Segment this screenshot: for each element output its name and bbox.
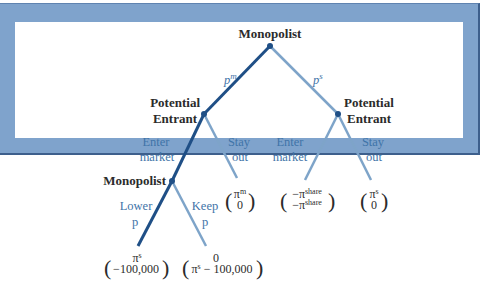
svg-text:(: ( xyxy=(360,188,367,213)
svg-text:): ) xyxy=(328,188,335,213)
node-lower-monopolist xyxy=(169,178,175,184)
left-enter-label-2: market xyxy=(140,150,175,164)
payoff-left-stay: ( πm 0 ) xyxy=(225,187,255,213)
branch-keep-p xyxy=(172,181,206,246)
right-enter-label-1: Enter xyxy=(276,135,304,149)
lower-p-label-1: Lower xyxy=(120,199,153,213)
root-label: Monopolist xyxy=(239,26,303,41)
right-stay-label-1: Stay xyxy=(362,135,385,149)
lower-p-label-2: p xyxy=(132,215,138,229)
node-left-entrant xyxy=(201,111,207,117)
svg-text:−πshare: −πshare xyxy=(292,198,322,212)
keep-p-label-2: p xyxy=(202,215,208,229)
left-entrant-label-1: Potential xyxy=(150,95,200,110)
left-enter-label-1: Enter xyxy=(142,135,170,149)
right-enter-label-2: market xyxy=(273,150,308,164)
svg-text:πs − 100,000: πs − 100,000 xyxy=(192,262,253,276)
svg-text:0: 0 xyxy=(371,198,377,212)
svg-text:(: ( xyxy=(280,188,287,213)
svg-text:): ) xyxy=(248,188,255,213)
left-entrant-label-2: Entrant xyxy=(153,111,198,126)
lower-monopolist-label: Monopolist xyxy=(103,173,167,188)
payoff-right-enter: ( −πshare −πshare ) xyxy=(280,187,335,213)
svg-text:(: ( xyxy=(104,255,111,280)
branch-lower-p xyxy=(138,181,172,246)
right-entrant-label-1: Potential xyxy=(344,95,394,110)
node-root xyxy=(267,43,273,49)
branch-ps xyxy=(270,46,338,114)
svg-text:): ) xyxy=(162,255,169,280)
payoff-right-stay: ( πs 0 ) xyxy=(360,187,388,213)
game-tree-content: Monopolist Potential Entrant Potential E… xyxy=(0,0,492,299)
node-right-entrant xyxy=(335,111,341,117)
right-entrant-label-2: Entrant xyxy=(347,111,392,126)
branch-pm xyxy=(204,46,270,114)
action-pm: pm xyxy=(223,71,237,87)
left-stay-label-2: out xyxy=(232,150,249,164)
svg-text:−100,000: −100,000 xyxy=(113,262,159,276)
svg-text:): ) xyxy=(256,255,263,280)
payoff-keep-p: ( 0 πs − 100,000 ) xyxy=(182,251,263,280)
keep-p-label-1: Keep xyxy=(192,199,218,213)
action-ps: ps xyxy=(312,71,323,87)
svg-text:): ) xyxy=(381,188,388,213)
left-stay-label-1: Stay xyxy=(228,135,251,149)
svg-text:0: 0 xyxy=(237,198,243,212)
svg-text:(: ( xyxy=(182,255,189,280)
right-stay-label-2: out xyxy=(366,150,383,164)
payoff-lower-p: ( πs −100,000 ) xyxy=(104,251,169,280)
branch-right-enter xyxy=(305,114,338,180)
svg-text:(: ( xyxy=(225,188,232,213)
